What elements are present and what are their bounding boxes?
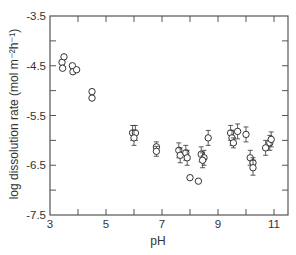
- x-axis-title: pH: [150, 234, 165, 248]
- axis-ticks: [50, 16, 288, 215]
- data-point: [199, 157, 205, 163]
- y-tick-label: -3.5: [26, 10, 46, 22]
- x-tick-label: 9: [215, 218, 221, 230]
- data-point: [230, 140, 236, 146]
- data-point: [184, 155, 190, 161]
- data-point: [250, 165, 256, 171]
- y-tick-label: -6.5: [26, 159, 46, 171]
- y-tick-label: -4.5: [26, 60, 46, 72]
- y-tick-label: -7.5: [26, 209, 46, 221]
- y-tick-label: -5.5: [26, 110, 46, 122]
- x-tick-label: 5: [103, 218, 109, 230]
- data-point: [89, 88, 95, 94]
- data-point: [61, 54, 67, 60]
- data-point: [234, 128, 240, 134]
- data-point: [268, 136, 274, 142]
- scatter-chart: 357911-3.5-4.5-5.5-6.5-7.5 pH log dissol…: [0, 0, 296, 255]
- x-tick-label: 3: [47, 218, 53, 230]
- tick-labels: 357911-3.5-4.5-5.5-6.5-7.5: [26, 10, 280, 230]
- data-points: [59, 54, 275, 185]
- data-point: [131, 135, 137, 141]
- plot-border: [50, 16, 288, 215]
- y-axis-title: log dissolution rate (mol m⁻²h⁻¹): [7, 29, 21, 200]
- data-point: [73, 67, 79, 73]
- data-point: [89, 95, 95, 101]
- data-point: [187, 174, 193, 180]
- plot-frame: [50, 16, 288, 215]
- x-tick-label: 7: [159, 218, 165, 230]
- data-point: [59, 65, 65, 71]
- data-point: [195, 178, 201, 184]
- x-tick-label: 11: [268, 218, 280, 230]
- data-point: [243, 131, 249, 137]
- data-point: [205, 135, 211, 141]
- data-point: [153, 148, 159, 154]
